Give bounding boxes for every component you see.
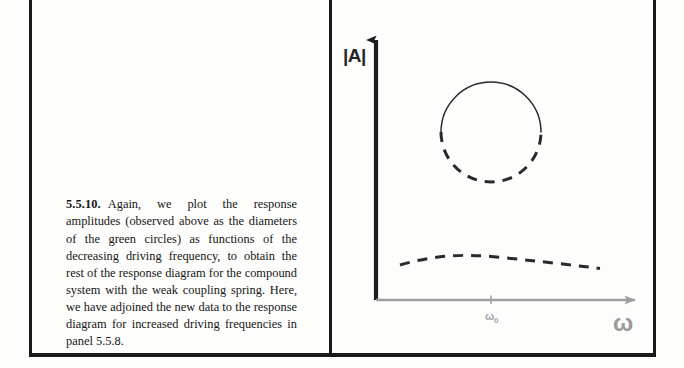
lower-branch-dashed-curve — [400, 255, 600, 268]
omega-zero-tick-label: ω — [485, 310, 494, 322]
caption-paragraph: 5.5.10.Again, we plot the response ampli… — [66, 196, 297, 350]
caption-body: Again, we plot the response amplitudes (… — [66, 197, 297, 348]
y-axis-label: |A| — [343, 45, 366, 66]
page-frame-right-rule — [653, 0, 656, 357]
page-frame-bottom-rule-right — [331, 353, 656, 357]
omega-zero-tick-subscript: 0 — [494, 316, 499, 325]
scanned-page: 5.5.10.Again, we plot the response ampli… — [0, 0, 684, 368]
upper-branch-dashed-arc — [441, 132, 541, 182]
response-diagram-panel: |A| ω 0 ω — [332, 0, 653, 353]
caption-panel: 5.5.10.Again, we plot the response ampli… — [32, 0, 328, 353]
page-frame-bottom-rule-left — [29, 353, 332, 357]
x-axis-label: ω — [613, 309, 633, 336]
caption-number: 5.5.10. — [66, 197, 101, 211]
upper-branch-solid-arc — [441, 82, 541, 132]
response-diagram-svg: |A| ω 0 ω — [332, 0, 653, 353]
